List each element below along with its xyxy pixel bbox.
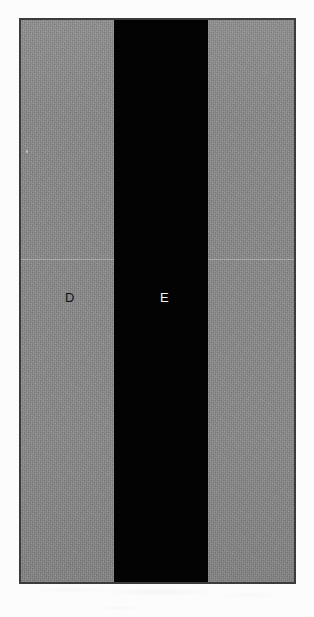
region-label-e: E [160,291,169,304]
micrograph-figure: D E [19,18,296,584]
micrograph-image: D E [21,20,294,582]
matrix-region-right [208,20,294,582]
page-canvas: D E [0,0,314,617]
region-label-d: D [65,291,75,304]
paper-grain [0,586,314,617]
